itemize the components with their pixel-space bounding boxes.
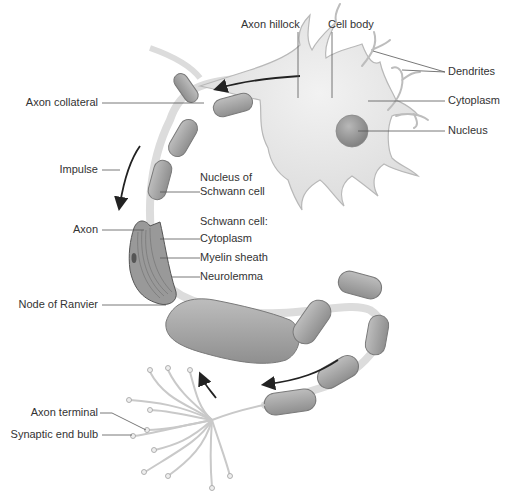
schwann-segment bbox=[211, 91, 254, 119]
label-neurolemma: Neurolemma bbox=[200, 270, 263, 283]
schwann-segment bbox=[263, 387, 318, 416]
impulse-arrow-left bbox=[120, 146, 140, 204]
schwann-segment bbox=[166, 299, 300, 363]
label-axon-terminal: Axon terminal bbox=[0, 406, 98, 419]
label-schwann-cell: Schwann cell: bbox=[200, 215, 268, 228]
schwann-segment bbox=[364, 314, 391, 357]
label-myelin-sheath: Myelin sheath bbox=[200, 251, 268, 264]
schwann-nucleus bbox=[132, 253, 137, 263]
schwann-segment bbox=[146, 158, 174, 201]
label-axon: Axon bbox=[0, 223, 98, 236]
label-nucleus: Nucleus bbox=[448, 124, 488, 137]
schwann-segment bbox=[336, 269, 384, 302]
label-axon-hillock: Axon hillock bbox=[241, 18, 300, 31]
label-synaptic-end-bulb: Synaptic end bulb bbox=[0, 428, 98, 441]
label-impulse: Impulse bbox=[0, 163, 98, 176]
label-cell-body: Cell body bbox=[328, 18, 374, 31]
label-nucleus-of-schwann-2: Schwann cell bbox=[200, 185, 265, 198]
label-node-of-ranvier: Node of Ranvier bbox=[0, 298, 98, 311]
label-schwann-cytoplasm: Cytoplasm bbox=[200, 232, 252, 245]
impulse-arrow-terminal bbox=[202, 378, 216, 398]
myelin-cutaway bbox=[129, 221, 176, 305]
axon-terminal bbox=[130, 370, 264, 487]
label-cytoplasm: Cytoplasm bbox=[448, 94, 500, 107]
label-dendrites: Dendrites bbox=[448, 65, 495, 78]
label-axon-collateral: Axon collateral bbox=[0, 96, 98, 109]
label-nucleus-of-schwann-1: Nucleus of bbox=[200, 171, 252, 184]
